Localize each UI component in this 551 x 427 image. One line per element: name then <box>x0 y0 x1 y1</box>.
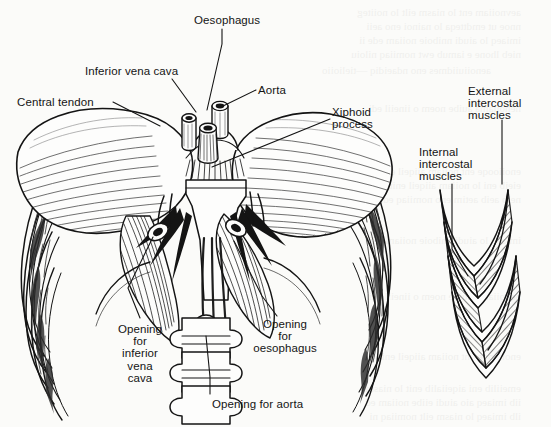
inferior-vena-cava-stump <box>182 114 196 151</box>
label-oesophagus: Oesophagus <box>194 14 260 26</box>
label-opening-for-inferior-vena-cava: Opening for inferior vena cava <box>98 323 182 384</box>
oesophagus-stump <box>198 123 218 163</box>
label-aorta: Aorta <box>258 84 286 96</box>
diaphragm-anatomical-figure <box>0 0 551 427</box>
label-xiphoid-process: Xiphoid process <box>332 106 373 130</box>
leader-inferior-vena-cava <box>172 79 196 112</box>
leader-aorta <box>221 90 256 107</box>
label-external-intercostal-muscles: External intercostal muscles <box>468 85 522 122</box>
label-central-tendon: Central tendon <box>17 96 94 108</box>
leader-oesophagus <box>207 29 222 110</box>
label-internal-intercostal-muscles: Internal intercostal muscles <box>419 146 473 183</box>
label-opening-for-aorta: Opening for aorta <box>212 398 303 410</box>
label-inferior-vena-cava: Inferior vena cava <box>85 65 178 77</box>
label-opening-for-oesophagus: Opening for oesophagus <box>240 318 330 355</box>
